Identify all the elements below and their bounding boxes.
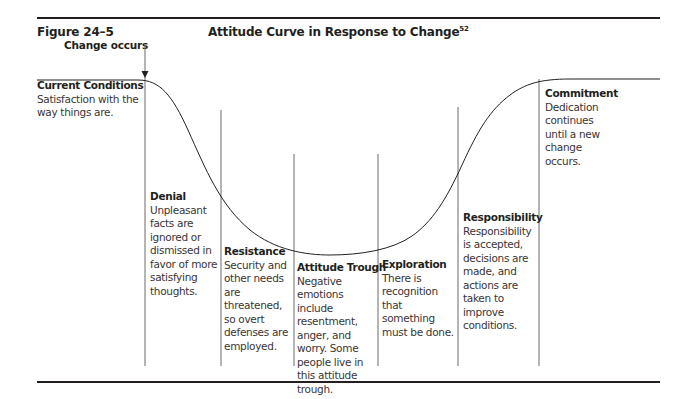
- stage-description: Satisfaction with the way things are.: [37, 93, 145, 120]
- stage-title: Current Conditions: [37, 79, 145, 93]
- stage-attitude-trough: Attitude Trough Negative emotions includ…: [297, 261, 379, 396]
- stage-title: Exploration: [382, 258, 458, 272]
- stage-denial: Denial Unpleasant facts are ignored or d…: [150, 190, 220, 298]
- stage-description: Unpleasant facts are ignored or dismisse…: [150, 204, 220, 299]
- stage-current-conditions: Current Conditions Satisfaction with the…: [37, 79, 145, 120]
- stage-description: Negative emotions include resentment, an…: [297, 275, 379, 397]
- stage-exploration: Exploration There is recognition that so…: [382, 258, 458, 339]
- stage-resistance: Resistance Security and other needs are …: [224, 245, 294, 353]
- arrow-down-icon: [142, 71, 149, 78]
- stage-title: Attitude Trough: [297, 261, 379, 275]
- stage-description: Dedication continues until a new change …: [545, 101, 617, 169]
- stage-title: Commitment: [545, 87, 617, 101]
- stage-description: There is recognition that something must…: [382, 272, 458, 340]
- stage-responsibility: Responsibility Responsibility is accepte…: [463, 211, 541, 333]
- stage-title: Responsibility: [463, 211, 541, 225]
- stage-title: Denial: [150, 190, 220, 204]
- stage-description: Security and other needs are threatened,…: [224, 259, 294, 354]
- stage-title: Resistance: [224, 245, 294, 259]
- stage-description: Responsibility is accepted, decisions ar…: [463, 225, 541, 333]
- stage-commitment: Commitment Dedication continues until a …: [545, 87, 617, 168]
